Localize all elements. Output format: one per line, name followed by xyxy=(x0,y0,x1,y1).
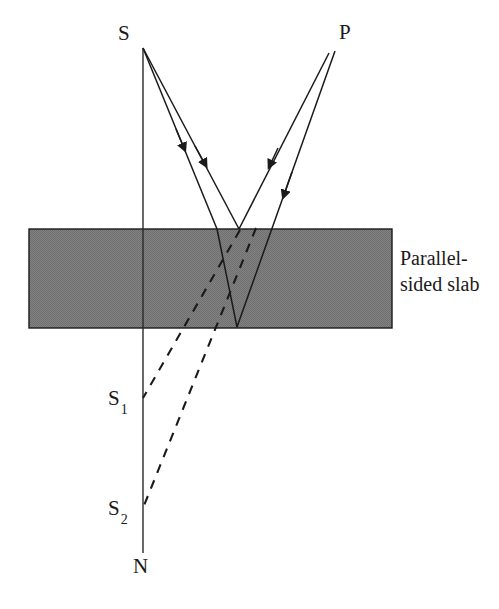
label-image-S1: S1 xyxy=(108,388,127,413)
ray-diagram-canvas: S P S1 S2 N Parallel- sided slab xyxy=(0,0,499,609)
label-observer-P: P xyxy=(339,22,351,43)
label-source-S: S xyxy=(118,23,130,44)
label-image-S2: S2 xyxy=(108,498,127,523)
label-image-S2-base: S xyxy=(108,496,120,520)
reflected-ray-to-observer xyxy=(239,53,329,229)
label-image-S1-subscript: 1 xyxy=(121,402,128,417)
incident-ray-inner-arrow xyxy=(176,129,184,148)
emergent-ray-arrow xyxy=(284,172,292,195)
incident-ray-outer-arrow xyxy=(195,146,205,164)
incident-ray-outer xyxy=(143,48,239,229)
label-normal-N: N xyxy=(133,556,148,577)
optics-diagram-svg xyxy=(0,0,499,609)
slab-caption-line-2: sided slab xyxy=(400,272,479,298)
slab-caption: Parallel- sided slab xyxy=(400,246,479,297)
label-image-S2-subscript: 2 xyxy=(121,512,128,527)
parallel-sided-slab xyxy=(29,229,392,328)
label-image-S1-base: S xyxy=(108,386,120,410)
slab-caption-line-1: Parallel- xyxy=(400,246,479,272)
